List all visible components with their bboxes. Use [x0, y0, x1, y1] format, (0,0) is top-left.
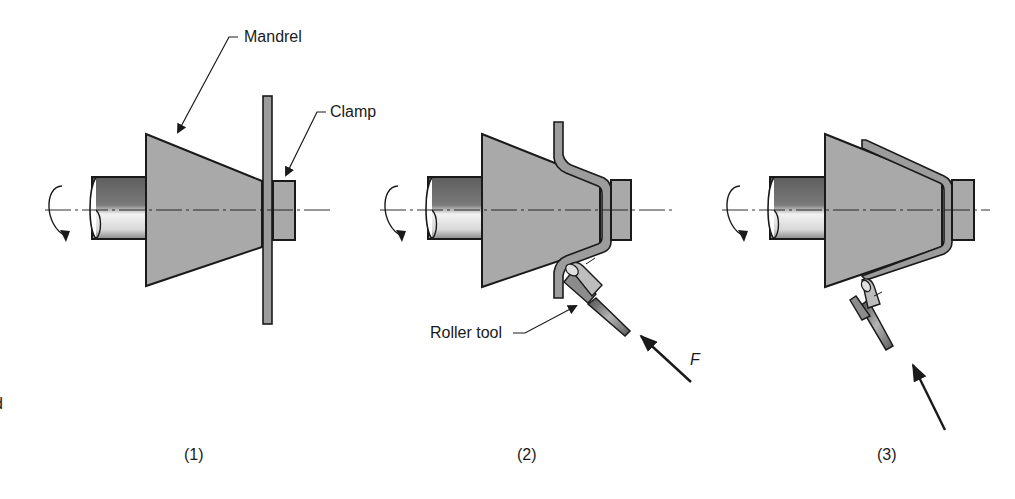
panel-1-caption: (1)	[184, 446, 204, 464]
panel-3-caption: (3)	[877, 446, 897, 464]
mandrel	[482, 134, 600, 287]
force-arrow	[641, 336, 691, 382]
roller-tool	[563, 258, 630, 336]
edge-text-fragment: d	[0, 395, 3, 413]
panel-3	[722, 134, 990, 430]
panel-1	[45, 37, 330, 324]
panel-2-caption: (2)	[517, 446, 537, 464]
clamp-leader	[286, 112, 326, 175]
rotation-arrow-icon	[385, 186, 402, 236]
rotation-arrow-icon	[49, 186, 66, 236]
mandrel-label: Mandrel	[244, 28, 302, 46]
shaft	[90, 177, 146, 239]
roller-tool-leader	[513, 306, 576, 333]
mandrel-leader	[178, 37, 238, 132]
force-label: F	[690, 351, 700, 369]
force-arrow	[913, 365, 945, 430]
rotation-arrow-icon	[727, 186, 744, 236]
panel-2	[380, 122, 691, 382]
shaft	[426, 177, 484, 239]
clamp	[273, 181, 295, 240]
clamp-label: Clamp	[330, 103, 376, 121]
shaft	[768, 177, 826, 239]
roller-tool	[850, 279, 893, 350]
roller-tool-label: Roller tool	[430, 324, 502, 342]
spinning-process-diagram	[0, 0, 1015, 499]
